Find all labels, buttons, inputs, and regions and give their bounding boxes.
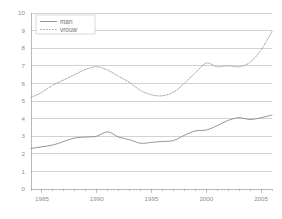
y-axis-tick-label: 3 — [22, 132, 26, 139]
legend-label-vrouw: vrouw — [60, 26, 77, 33]
series-line-vrouw — [31, 31, 272, 97]
x-axis-tick-label: 1990 — [90, 195, 104, 202]
x-axis-tick-label: 2000 — [199, 195, 213, 202]
legend-label-man: man — [60, 18, 73, 25]
y-axis-tick-label: 10 — [18, 9, 25, 16]
y-axis-tick-label: 9 — [22, 27, 26, 34]
x-axis-ticks — [31, 189, 272, 193]
chart-canvas: 012345678910 19851990199520002005 man vr… — [0, 0, 282, 219]
series-line-man — [31, 115, 272, 148]
y-axis-tick-label: 5 — [22, 97, 26, 104]
x-axis-tick-label: 2005 — [254, 195, 268, 202]
y-axis-tick-label: 4 — [22, 115, 26, 122]
x-axis-tick-label: 1995 — [145, 195, 159, 202]
y-axis-tick-label: 6 — [22, 80, 26, 87]
gridlines — [31, 13, 272, 171]
x-axis-tick-label: 1985 — [35, 195, 49, 202]
y-axis-tick-label: 7 — [22, 62, 26, 69]
y-axis-tick-label: 2 — [22, 150, 26, 157]
x-axis-tick-labels: 19851990199520002005 — [35, 195, 268, 202]
y-axis-tick-label: 8 — [22, 44, 26, 51]
line-chart: 012345678910 19851990199520002005 man vr… — [0, 0, 282, 219]
y-axis-tick-labels: 012345678910 — [18, 9, 25, 192]
y-axis-tick-label: 0 — [22, 185, 26, 192]
chart-legend: man vrouw — [36, 15, 95, 34]
y-axis-tick-label: 1 — [22, 168, 26, 175]
